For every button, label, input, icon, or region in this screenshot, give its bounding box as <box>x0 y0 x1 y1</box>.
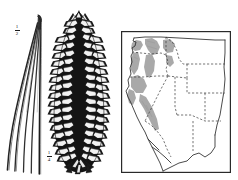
pine-cone-drawing <box>46 8 116 176</box>
range-map-svg <box>121 31 231 173</box>
cone-scale-label: 1 4 <box>45 150 53 162</box>
cone-scale-denominator: 4 <box>45 157 53 162</box>
range-map <box>121 31 231 173</box>
cone-scale-numerator: 1 <box>45 150 53 155</box>
botanical-plate: 1 2 <box>0 0 238 180</box>
needle-scale-denominator: 2 <box>13 31 21 36</box>
pine-cone-figure <box>46 8 116 176</box>
needle-scale-label: 1 2 <box>13 24 21 36</box>
needle-scale-numerator: 1 <box>13 24 21 29</box>
